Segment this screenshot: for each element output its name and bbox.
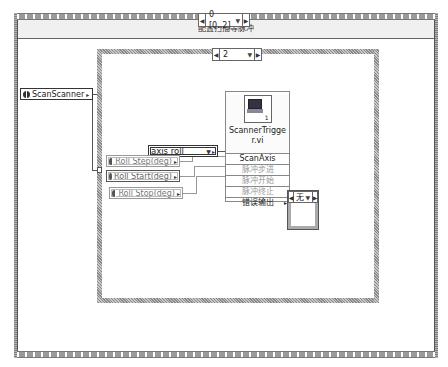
outer-frame-left-edge (17, 20, 18, 351)
case-structure-right-border (374, 49, 379, 303)
subvi-computer-icon: 1 (244, 95, 272, 123)
scanscanner-label: ScanScanner (32, 90, 84, 99)
sequence-frame-selector[interactable]: ◀ 0 [0..2] ▼ ▶ (198, 13, 250, 27)
roll-start-wire (180, 176, 194, 177)
control-icon (112, 190, 116, 197)
case-tunnel (97, 167, 102, 173)
roll-start-control[interactable]: Roll Start(deg) ▸ (106, 170, 180, 182)
subvi-title-line2: r.vi (226, 136, 289, 146)
output-terminal-icon: ▸ (174, 173, 177, 180)
roll-stop-label: Roll Stop(deg) (118, 189, 175, 198)
output-terminal-icon: ▸ (86, 91, 89, 98)
chevron-down-icon[interactable]: ▼ (247, 51, 254, 58)
roll-start-label: Roll Start(deg) (114, 172, 172, 181)
control-icon (109, 158, 113, 165)
roll-step-label: Roll Step(deg) (115, 157, 172, 166)
terminal-label: 错误输出 (242, 198, 274, 207)
subvi-icon-badge: 1 (265, 114, 269, 121)
error-enum-selector[interactable]: ◀ 无 ▼ ▶ (288, 191, 318, 203)
next-arrow-icon[interactable]: ▶ (312, 192, 317, 202)
prev-case-arrow-icon[interactable]: ◀ (213, 49, 220, 60)
error-output-frame-right (315, 203, 318, 229)
case-selector[interactable]: ◀ 2 ▼ ▶ (212, 48, 262, 61)
roll-stop-wire (183, 193, 196, 194)
scanscanner-constant[interactable]: ScanScanner ▸ (20, 88, 93, 100)
roll-stop-wire-h2 (196, 176, 226, 177)
output-terminal-icon: ▸ (212, 148, 215, 155)
terminal-label: 脉冲终止 (242, 187, 274, 196)
terminal-pulse-step[interactable]: 脉冲步进 (226, 165, 289, 176)
chevron-down-icon[interactable]: ▼ (305, 194, 312, 201)
roll-step-control[interactable]: Roll Step(deg) ▸ (106, 155, 180, 167)
scanscanner-wire-h (93, 94, 97, 95)
refnum-icon (23, 91, 30, 98)
subvi-title-line1: ScannerTrigge (226, 126, 289, 136)
scanner-trigger-subvi[interactable]: 1 ScannerTrigge r.vi ScanAxis 脉冲步进 脉冲开始 … (225, 91, 290, 202)
chevron-down-icon[interactable]: ▼ (206, 148, 211, 155)
terminal-label: 脉冲开始 (242, 176, 274, 185)
roll-start-wire-v (194, 166, 195, 177)
case-selector-value: 2 (220, 49, 247, 60)
case-structure-left-border (97, 49, 102, 303)
roll-step-wire (180, 161, 192, 162)
roll-stop-control[interactable]: Roll Stop(deg) ▸ (109, 187, 183, 199)
error-output-indicator[interactable]: ◀ 无 ▼ ▶ (287, 190, 319, 230)
output-terminal-icon: ▸ (177, 190, 180, 197)
prev-frame-arrow-icon[interactable]: ◀ (199, 14, 206, 26)
outer-frame-right-border (435, 13, 438, 358)
terminal-pulse-stop[interactable]: 脉冲终止 (226, 187, 289, 198)
outer-frame-bottom-filmstrip (14, 351, 438, 358)
terminal-label: 脉冲步进 (242, 165, 274, 174)
terminal-scanaxis[interactable]: ScanAxis (226, 154, 289, 165)
case-structure-bottom-border (97, 298, 379, 303)
terminal-pulse-start[interactable]: 脉冲开始 (226, 176, 289, 187)
output-terminal-icon: ▸ (174, 158, 177, 165)
terminal-error-out[interactable]: 错误输出 ▸ (226, 198, 289, 208)
subvi-header: 1 ScannerTrigge r.vi (226, 95, 289, 154)
terminal-label: ScanAxis (239, 154, 275, 163)
next-case-arrow-icon[interactable]: ▶ (254, 49, 261, 60)
error-enum-value: 无 (294, 192, 305, 203)
error-output-frame-bottom (288, 226, 318, 229)
chevron-down-icon[interactable]: ▼ (235, 17, 242, 24)
roll-start-wire-h2 (194, 166, 226, 167)
next-frame-arrow-icon[interactable]: ▶ (242, 14, 249, 26)
outer-frame-right-edge (434, 20, 435, 351)
roll-stop-wire-v (196, 176, 197, 194)
scanscanner-wire-v (92, 94, 93, 170)
control-icon (109, 173, 112, 180)
frame-selector-value: 0 [0..2] (206, 9, 235, 31)
